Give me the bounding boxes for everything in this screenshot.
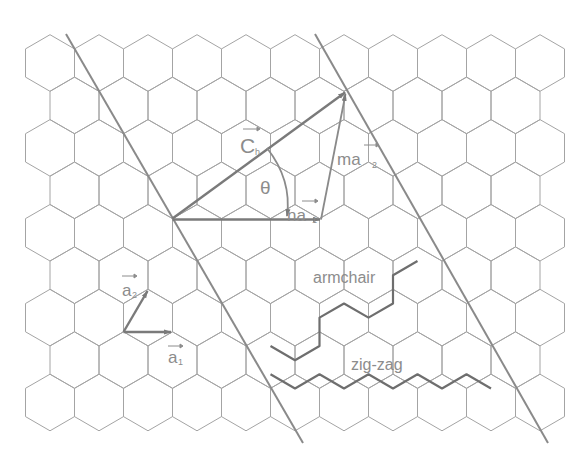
- hexagon-cell: [491, 162, 540, 219]
- hexagon-cell: [222, 35, 271, 92]
- hexagon-cell: [26, 35, 75, 92]
- hexagon-cell: [50, 162, 99, 219]
- a1-label: a: [168, 348, 178, 367]
- hexagon-cell: [124, 374, 173, 431]
- hexagon-cell: [467, 205, 516, 262]
- hexagon-cell: [124, 205, 173, 262]
- chiral-vector-label: C: [240, 134, 255, 157]
- hexagon-cell: [516, 289, 565, 346]
- hexagon-cell: [26, 374, 75, 431]
- na1-subscript: 1: [312, 215, 317, 225]
- ma2-label: ma: [337, 150, 361, 169]
- hexagon-cell: [295, 77, 344, 134]
- zigzag-label: zig-zag: [351, 356, 403, 373]
- hexagon-cell: [173, 35, 222, 92]
- armchair-label: armchair: [313, 269, 376, 286]
- hexagon-cell: [148, 162, 197, 219]
- hexagon-cell: [148, 247, 197, 304]
- hexagon-cell: [467, 374, 516, 431]
- a1-subscript: 1: [178, 357, 183, 367]
- hexagon-cell: [246, 247, 295, 304]
- hexagon-cell: [246, 77, 295, 134]
- hexagon-cell: [50, 332, 99, 389]
- hexagon-cell: [173, 120, 222, 177]
- hexagon-cell: [222, 205, 271, 262]
- hexagon-cell: [75, 374, 124, 431]
- hexagon-cell: [418, 120, 467, 177]
- hexagon-cell: [418, 289, 467, 346]
- hexagon-cell: [26, 120, 75, 177]
- hexagon-cell: [197, 77, 246, 134]
- hexagon-cell: [271, 374, 320, 431]
- hexagon-cell: [50, 247, 99, 304]
- hexagon-cell: [148, 77, 197, 134]
- hexagon-cell: [418, 205, 467, 262]
- hexagon-cell: [271, 35, 320, 92]
- hexagon-cell: [99, 332, 148, 389]
- ma2-subscript: 2: [372, 160, 377, 170]
- hexagon-cell: [491, 77, 540, 134]
- hexagon-cell: [442, 162, 491, 219]
- hexagon-cell: [467, 120, 516, 177]
- hexagon-cell: [320, 289, 369, 346]
- hexagon-cell: [491, 332, 540, 389]
- chiral-vector-subscript: h: [255, 147, 260, 157]
- hexagon-cell: [369, 35, 418, 92]
- hexagon-cell: [99, 162, 148, 219]
- hexagon-cell: [222, 289, 271, 346]
- hexagon-cell: [516, 374, 565, 431]
- hexagon-cell: [222, 374, 271, 431]
- hexagon-cell: [197, 332, 246, 389]
- nanotube-chirality-diagram: C h θ na 1 ma 2 a 2 a 1 armchair zig-zag: [0, 0, 588, 464]
- honeycomb-lattice: C h θ na 1 ma 2 a 2 a 1 armchair zig-zag: [0, 0, 588, 464]
- zigzag-edge-path: [271, 374, 492, 388]
- hexagon-cell: [320, 374, 369, 431]
- hexagon-grid: [26, 35, 565, 431]
- hexagon-cell: [50, 77, 99, 134]
- hexagon-cell: [442, 77, 491, 134]
- hexagon-cell: [75, 289, 124, 346]
- hexagon-cell: [26, 205, 75, 262]
- hexagon-cell: [516, 120, 565, 177]
- hexagon-cell: [26, 289, 75, 346]
- hexagon-cell: [173, 374, 222, 431]
- theta-label: θ: [260, 177, 271, 198]
- a2-label: a: [122, 281, 132, 300]
- hexagon-cell: [442, 247, 491, 304]
- na1-label: na: [287, 206, 306, 225]
- hexagon-cell: [516, 205, 565, 262]
- hexagon-cell: [124, 35, 173, 92]
- hexagon-cell: [75, 205, 124, 262]
- a2-subscript: 2: [132, 290, 137, 300]
- hexagon-cell: [418, 35, 467, 92]
- hexagon-cell: [369, 374, 418, 431]
- hexagon-cell: [344, 162, 393, 219]
- hexagon-cell: [271, 289, 320, 346]
- hexagon-cell: [75, 120, 124, 177]
- hexagon-cell: [442, 332, 491, 389]
- hexagon-cell: [197, 247, 246, 304]
- hexagon-cell: [467, 35, 516, 92]
- hexagon-cell: [393, 162, 442, 219]
- hexagon-cell: [320, 35, 369, 92]
- hexagon-cell: [393, 77, 442, 134]
- hexagon-cell: [516, 35, 565, 92]
- hexagon-cell: [491, 247, 540, 304]
- hexagon-cell: [369, 205, 418, 262]
- hexagon-cell: [320, 205, 369, 262]
- hexagon-cell: [173, 289, 222, 346]
- hexagon-cell: [393, 247, 442, 304]
- hexagon-cell: [467, 289, 516, 346]
- hexagon-cell: [418, 374, 467, 431]
- hexagon-cell: [246, 332, 295, 389]
- hexagon-cell: [344, 77, 393, 134]
